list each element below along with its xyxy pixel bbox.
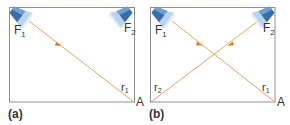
label-r1: r1 <box>262 81 270 94</box>
caption-a: (a) <box>8 107 23 121</box>
label-r1: r1 <box>121 81 129 94</box>
diagram-canvas: F1 F2 r1 A (a) F1 F2 r1 r2 A (b) <box>0 0 290 125</box>
ray-r1 <box>172 21 275 102</box>
panel-a: F1 F2 r1 A (a) <box>6 2 144 121</box>
ray-r1 <box>29 21 134 102</box>
label-point-a: A <box>277 95 285 109</box>
ray-r2 <box>151 21 258 102</box>
label-r2: r2 <box>154 81 162 94</box>
panel-b: F1 F2 r1 r2 A (b) <box>148 2 285 121</box>
lamp-icon-f2 <box>108 2 136 30</box>
caption-b: (b) <box>149 107 164 121</box>
label-point-a: A <box>136 95 144 109</box>
arrow-icon <box>55 42 62 46</box>
label-f2: F2 <box>263 21 275 37</box>
